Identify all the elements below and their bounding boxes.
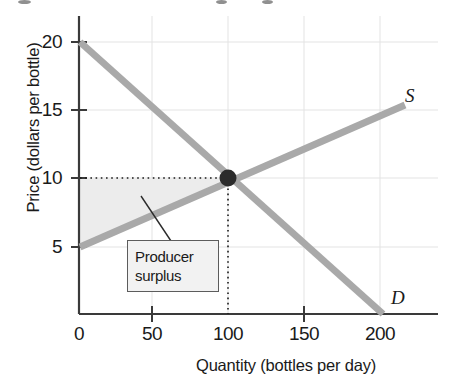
y-axis-title: Price (dollars per bottle) bbox=[24, 23, 43, 233]
callout-line-1: Producer bbox=[135, 247, 193, 266]
callout-line-2: surplus bbox=[135, 266, 181, 285]
x-tick-label-50: 50 bbox=[122, 323, 182, 345]
y-tick-label-5: 5 bbox=[16, 236, 62, 258]
x-tick-label-150: 150 bbox=[274, 323, 334, 345]
producer-surplus-callout: Producer surplus bbox=[127, 240, 219, 292]
supply-curve-label: S bbox=[405, 85, 415, 107]
x-tick-label-0: 0 bbox=[49, 323, 109, 345]
demand-curve-label: D bbox=[391, 287, 405, 309]
equilibrium-point-marker bbox=[220, 170, 237, 187]
x-axis-title: Quantity (bottles per day) bbox=[196, 356, 376, 375]
supply-curve bbox=[80, 105, 405, 247]
producer-surplus-chart: 20 15 10 5 0 50 100 150 200 Price (dolla… bbox=[0, 0, 458, 385]
x-tick-label-100: 100 bbox=[198, 323, 258, 345]
x-tick-label-200: 200 bbox=[350, 323, 410, 345]
